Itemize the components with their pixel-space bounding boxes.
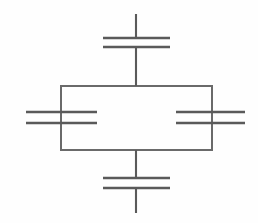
capacitor-bottom	[103, 150, 170, 213]
central-rectangle-loop	[61, 86, 212, 150]
circuit-diagram	[0, 0, 258, 223]
capacitor-right	[176, 112, 245, 123]
capacitor-top	[103, 14, 170, 86]
schematic-canvas	[0, 0, 258, 223]
loop-path	[61, 86, 212, 150]
